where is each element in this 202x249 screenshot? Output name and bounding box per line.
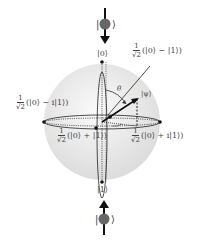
bloch-sphere-diagram: | ⟩ | ⟩ [0, 0, 202, 249]
svg-text:|: | [96, 19, 99, 31]
bottom-spin-icon: | ⟩ [95, 200, 115, 235]
plus-i-state-label: 1√2(|0⟩ + i|1⟩) [131, 127, 183, 144]
minus-i-state-label: 1√2(|0⟩ − i|1⟩) [16, 94, 68, 111]
minus-state-label: 1√2(|0⟩ − |1⟩) [132, 42, 182, 59]
svg-text:⟩: ⟩ [112, 19, 116, 30]
top-spin-icon: | ⟩ [96, 8, 116, 44]
theta-label: θ [117, 86, 121, 93]
north-label: |0⟩ [97, 50, 108, 58]
plus-state-label: 1√2(|0⟩ + |1⟩) [57, 127, 107, 144]
south-label: |1⟩ [97, 186, 108, 194]
psi-label: |ψ⟩ [141, 91, 152, 98]
svg-text:|: | [95, 214, 98, 226]
svg-text:⟩: ⟩ [111, 214, 115, 225]
